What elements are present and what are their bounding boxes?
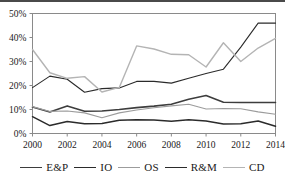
x-axis-tick-label: 2012: [231, 140, 250, 150]
legend-line-swatch: [223, 167, 245, 168]
legend-line-swatch: [74, 167, 96, 168]
y-axis-tick-label: 0%: [14, 129, 27, 139]
y-axis-tick-label: 30%: [9, 57, 27, 67]
plot-frame: [33, 14, 276, 134]
legend-item-io[interactable]: IO: [74, 162, 112, 173]
legend-item-label: R&M: [191, 162, 217, 173]
legend-line-swatch: [118, 167, 140, 168]
x-axis-tick-label: 2008: [162, 140, 181, 150]
legend-item-label: IO: [100, 162, 112, 173]
legend-line-swatch: [165, 167, 187, 168]
x-axis-tick-label: 2006: [127, 140, 146, 150]
y-axis-tick-label: 40%: [9, 33, 27, 43]
chart-legend: E&PIOOSR&MCD: [0, 157, 285, 178]
legend-item-label: E&P: [46, 162, 68, 173]
y-axis-tick-label: 20%: [9, 81, 27, 91]
legend-line-swatch: [20, 167, 42, 168]
legend-item-e-p[interactable]: E&P: [20, 162, 68, 173]
chart-canvas: 0%10%20%30%40%50%20002002200420062008201…: [0, 0, 285, 155]
series-line-e-p: [33, 96, 276, 112]
line-chart: 0%10%20%30%40%50%20002002200420062008201…: [0, 0, 285, 155]
series-line-r-m: [33, 117, 276, 127]
chart-page: 0%10%20%30%40%50%20002002200420062008201…: [0, 0, 285, 178]
legend-item-os[interactable]: OS: [118, 162, 158, 173]
x-axis-tick-label: 2000: [23, 140, 42, 150]
legend-item-label: CD: [249, 162, 265, 173]
x-axis-tick-label: 2004: [92, 140, 111, 150]
legend-item-r-m[interactable]: R&M: [165, 162, 217, 173]
legend-item-cd[interactable]: CD: [223, 162, 265, 173]
x-axis-tick-label: 2014: [266, 140, 285, 150]
y-axis-tick-label: 10%: [9, 105, 27, 115]
legend-item-label: OS: [144, 162, 158, 173]
x-axis-tick-label: 2010: [197, 140, 216, 150]
series-line-io: [33, 23, 276, 92]
y-axis-tick-label: 50%: [9, 9, 27, 19]
series-line-cd: [33, 38, 276, 92]
x-axis-tick-label: 2002: [58, 140, 77, 150]
